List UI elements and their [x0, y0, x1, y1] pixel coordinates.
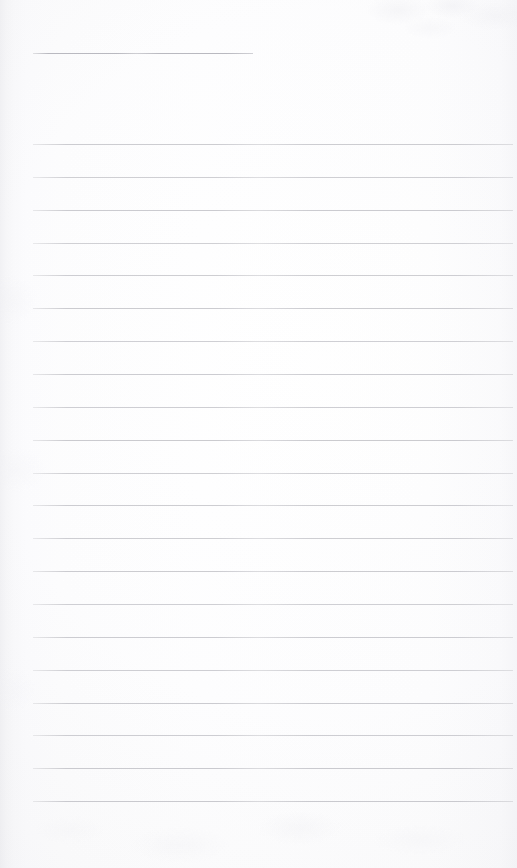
ruled-line [33, 571, 513, 572]
ruled-line [33, 538, 513, 539]
ruled-line [33, 703, 513, 704]
ruled-line [33, 275, 513, 276]
ruled-line [33, 177, 513, 178]
ruled-line [33, 210, 513, 211]
ruled-line [33, 768, 513, 769]
ruled-line [33, 440, 513, 441]
ruled-line [33, 670, 513, 671]
ruled-line [33, 374, 513, 375]
ruled-line [33, 407, 513, 408]
scanned-page [0, 0, 517, 868]
ruled-line [33, 308, 513, 309]
ruled-line [33, 144, 513, 145]
header-rule-line [33, 53, 253, 54]
paper-background [0, 0, 517, 868]
ruled-line [33, 604, 513, 605]
ruled-line [33, 801, 513, 802]
ruled-line [33, 473, 513, 474]
ruled-line [33, 505, 513, 506]
ruled-line [33, 341, 513, 342]
ruled-line [33, 637, 513, 638]
ruled-line [33, 243, 513, 244]
ruled-line [33, 735, 513, 736]
